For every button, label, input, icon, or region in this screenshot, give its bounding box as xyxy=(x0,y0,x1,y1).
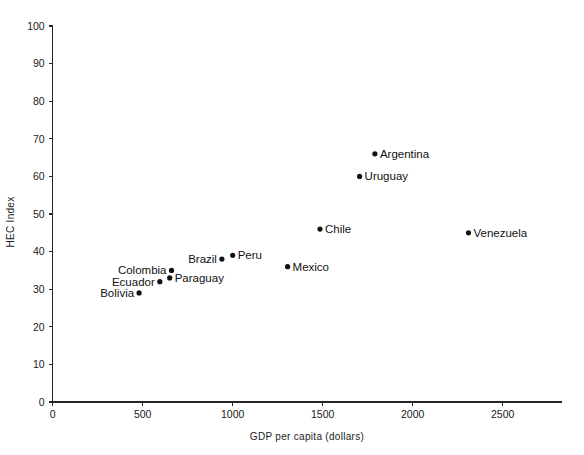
data-point: Argentina xyxy=(372,148,429,160)
data-point-label: Venezuela xyxy=(474,227,528,239)
y-axis-tick-label: 60 xyxy=(33,170,45,182)
data-point-marker xyxy=(219,257,224,262)
data-point-marker xyxy=(317,226,322,231)
data-point: Uruguay xyxy=(357,170,408,182)
data-point-marker xyxy=(157,279,162,284)
chart-canvas: 0102030405060708090100 05001000150020002… xyxy=(0,0,584,455)
data-point: Chile xyxy=(317,223,351,235)
x-axis-title: GDP per capita (dollars) xyxy=(250,431,364,442)
data-point-label: Colombia xyxy=(118,264,167,276)
data-point-label: Ecuador xyxy=(112,276,155,288)
y-axis-tick-label: 100 xyxy=(27,20,45,32)
y-axis-tick-label: 50 xyxy=(33,208,45,220)
y-axis: 0102030405060708090100 xyxy=(27,20,53,408)
data-point-label: Paraguay xyxy=(175,272,224,284)
data-point-marker xyxy=(357,174,362,179)
y-axis-tick-label: 20 xyxy=(33,321,45,333)
x-axis: 05001000150020002500 xyxy=(50,402,562,420)
data-point: Venezuela xyxy=(466,227,528,239)
data-point: Bolivia xyxy=(100,287,141,299)
data-point-label: Peru xyxy=(238,249,262,261)
x-axis-tick-label: 2000 xyxy=(401,408,425,420)
data-point: Mexico xyxy=(285,261,329,273)
y-axis-tick-label: 90 xyxy=(33,57,45,69)
data-points: BoliviaEcuadorParaguayColombiaBrazilPeru… xyxy=(100,148,528,299)
data-point-marker xyxy=(167,275,172,280)
y-axis-tick-label: 80 xyxy=(33,95,45,107)
y-axis-tick-label: 30 xyxy=(33,283,45,295)
data-point-marker xyxy=(230,253,235,258)
data-point-marker xyxy=(169,268,174,273)
data-point-label: Uruguay xyxy=(365,170,409,182)
scatter-chart: 0102030405060708090100 05001000150020002… xyxy=(0,0,584,455)
x-axis-tick-label: 1000 xyxy=(221,408,245,420)
data-point-marker xyxy=(285,264,290,269)
data-point: Peru xyxy=(230,249,262,261)
data-point-label: Argentina xyxy=(380,148,430,160)
data-point-marker xyxy=(137,290,142,295)
data-point: Brazil xyxy=(188,253,224,265)
data-point: Colombia xyxy=(118,264,174,276)
data-point-label: Bolivia xyxy=(100,287,134,299)
data-point-marker xyxy=(372,151,377,156)
x-axis-tick-label: 2500 xyxy=(491,408,515,420)
data-point-marker xyxy=(466,230,471,235)
data-point-label: Brazil xyxy=(188,253,217,265)
data-point: Ecuador xyxy=(112,276,162,288)
data-point-label: Mexico xyxy=(293,261,329,273)
x-axis-tick-label: 0 xyxy=(50,408,56,420)
x-axis-tick-label: 1500 xyxy=(311,408,335,420)
y-axis-title: HEC Index xyxy=(5,196,16,247)
data-point: Paraguay xyxy=(167,272,224,284)
x-axis-tick-label: 500 xyxy=(134,408,152,420)
data-point-label: Chile xyxy=(325,223,351,235)
y-axis-tick-label: 40 xyxy=(33,245,45,257)
y-axis-tick-label: 10 xyxy=(33,358,45,370)
y-axis-tick-label: 70 xyxy=(33,133,45,145)
y-axis-tick-label: 0 xyxy=(39,396,45,408)
